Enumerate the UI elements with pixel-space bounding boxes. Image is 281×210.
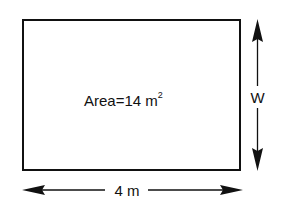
- arrow-left-icon: [22, 185, 45, 195]
- width-label: W: [250, 90, 265, 105]
- arrow-right-icon: [220, 185, 243, 195]
- length-label: 4 m: [108, 183, 146, 198]
- area-label: Area=14 m2: [84, 90, 163, 108]
- area-exponent: 2: [158, 90, 163, 100]
- arrow-down-icon: [252, 148, 263, 171]
- arrow-up-icon: [252, 19, 263, 42]
- area-text: Area=14 m: [84, 92, 158, 109]
